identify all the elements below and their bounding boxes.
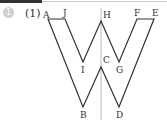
label-D: D — [116, 110, 123, 120]
label-J: J — [62, 8, 67, 18]
label-H: H — [103, 10, 111, 20]
label-G: G — [116, 65, 123, 75]
label-A: A — [42, 10, 50, 20]
label-E: E — [152, 8, 159, 18]
w-figure-diagram: A J H F E I C G B D — [0, 0, 167, 120]
label-I: I — [81, 65, 85, 75]
label-B: B — [80, 110, 87, 120]
label-F: F — [134, 8, 140, 18]
label-C: C — [103, 55, 110, 65]
